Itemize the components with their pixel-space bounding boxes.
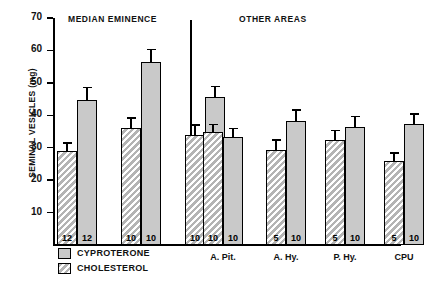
error-bar: [354, 117, 355, 127]
error-bar-cap: [351, 116, 360, 117]
y-tick-label-30: 30: [16, 141, 42, 152]
sample-size-label: 5: [384, 234, 404, 243]
y-tick-label-10: 10: [16, 206, 42, 217]
bar-group: 1010: [203, 18, 243, 245]
sample-size-label: 5: [266, 234, 286, 243]
sample-size-label: 12: [57, 234, 77, 243]
y-tick-label-60: 60: [16, 43, 42, 54]
sample-size-label: 10: [223, 234, 243, 243]
error-bar-cap: [209, 124, 218, 125]
sample-size-label: 12: [77, 234, 97, 243]
error-bar: [413, 115, 414, 125]
error-bar: [212, 125, 213, 132]
y-tick-label-70: 70: [16, 11, 42, 22]
error-bar-cap: [292, 109, 301, 110]
error-bar: [295, 111, 296, 121]
bar-group: 1212: [57, 18, 97, 245]
bar-cyproterone: [404, 124, 424, 245]
error-bar: [275, 141, 276, 150]
bar-cholesterol: [185, 135, 205, 245]
sample-size-label: 10: [141, 234, 161, 243]
plot-area: 1212101010101010510510510: [53, 18, 401, 245]
bar-group: 510: [266, 18, 306, 245]
sample-size-label: 10: [404, 234, 424, 243]
error-bar: [334, 131, 335, 140]
y-tick-label-50: 50: [16, 76, 42, 87]
error-bar-cap: [191, 124, 200, 125]
error-bar: [150, 50, 151, 62]
error-bar: [86, 88, 87, 100]
error-bar-cap: [147, 49, 156, 50]
error-bar-cap: [331, 130, 340, 131]
x-group-label-apit: A. Pit.: [196, 252, 250, 262]
error-bar: [393, 154, 394, 161]
legend-swatch-cholesterol: [58, 263, 71, 274]
bar-group: 510: [384, 18, 424, 245]
bar-cyproterone: [77, 100, 97, 245]
error-bar-cap: [390, 152, 399, 153]
legend-label-cholesterol: CHOLESTEROL: [77, 262, 148, 275]
bar-cholesterol: [203, 132, 223, 245]
bar-cholesterol: [325, 140, 345, 245]
sample-size-label: 5: [325, 234, 345, 243]
y-tick-label-20: 20: [16, 173, 42, 184]
bar-cyproterone: [223, 137, 243, 245]
error-bar-cap: [410, 113, 419, 114]
legend-swatch-cyproterone: [58, 248, 71, 259]
error-bar-cap: [272, 139, 281, 140]
error-bar-cap: [63, 142, 72, 143]
error-bar: [66, 144, 67, 151]
bar-cholesterol: [266, 150, 286, 245]
error-bar-cap: [83, 87, 92, 88]
x-group-label-ahy: A. Hy.: [259, 252, 313, 262]
error-bar: [232, 129, 233, 137]
y-tick-label-40: 40: [16, 108, 42, 119]
sample-size-label: 10: [203, 234, 223, 243]
sample-size-label: 10: [121, 234, 141, 243]
error-bar-cap: [229, 128, 238, 129]
sample-size-label: 10: [286, 234, 306, 243]
bar-cholesterol: [121, 128, 141, 245]
bar-group: 1010: [121, 18, 161, 245]
legend-label-cyproterone: CYPROTERONE: [77, 247, 150, 260]
bar-cholesterol: [57, 151, 77, 245]
x-group-label-cpu: CPU: [377, 252, 428, 262]
sample-size-label: 10: [185, 234, 205, 243]
x-group-label-phy: P. Hy.: [318, 252, 372, 262]
error-bar: [130, 119, 131, 129]
bar-cyproterone: [286, 121, 306, 245]
error-bar-cap: [127, 117, 136, 118]
bar-cyproterone: [141, 62, 161, 245]
sample-size-label: 10: [345, 234, 365, 243]
bar-cyproterone: [345, 127, 365, 245]
error-bar: [194, 126, 195, 135]
bar-group: 510: [325, 18, 365, 245]
